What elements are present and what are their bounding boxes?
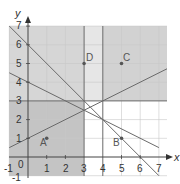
x-tick-1: 1 [44, 163, 50, 174]
y-tick-neg1: -1 [12, 172, 21, 183]
point-a-label: A [40, 137, 47, 148]
y-tick-5: 5 [16, 58, 22, 69]
x-tick-2: 2 [63, 163, 69, 174]
point-c-label: C [123, 52, 130, 63]
y-tick-6: 6 [16, 39, 22, 50]
x-tick-5: 5 [119, 163, 125, 174]
y-tick-1: 1 [16, 133, 22, 144]
x-tick-3: 3 [81, 163, 87, 174]
inequality-graph: -1 0 1 2 3 4 5 6 7 x -1 1 2 3 4 5 6 7 y … [0, 0, 180, 184]
x-tick-4: 4 [100, 163, 106, 174]
x-tick-0: 0 [18, 159, 24, 170]
x-tick-7: 7 [156, 163, 162, 174]
x-axis-label: x [173, 151, 180, 163]
y-axis-arrow-icon [25, 16, 31, 23]
x-tick-6: 6 [137, 163, 143, 174]
x-axis-arrow-icon [166, 154, 173, 160]
point-b-label: B [113, 137, 120, 148]
point-b-marker [120, 137, 124, 141]
y-tick-2: 2 [16, 114, 22, 125]
y-axis-label: y [14, 7, 22, 19]
y-tick-7: 7 [16, 20, 22, 31]
y-tick-3: 3 [16, 95, 22, 106]
y-tick-4: 4 [16, 77, 22, 88]
point-d-label: D [86, 52, 93, 63]
